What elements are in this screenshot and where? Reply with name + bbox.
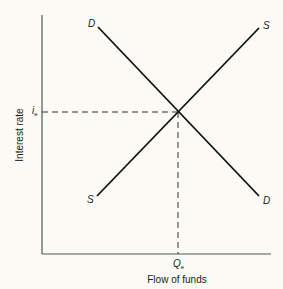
supply-top-label: S: [263, 21, 270, 31]
diagram-canvas: [0, 0, 283, 289]
demand-bottom-label: D: [263, 196, 270, 206]
x-axis-title: Flow of funds: [147, 274, 206, 285]
equilibrium-quantity-symbol: Q: [173, 258, 181, 269]
equilibrium-rate-subscript: e: [34, 111, 37, 117]
demand-top-label: D: [88, 19, 95, 29]
equilibrium-rate-label: ie: [32, 106, 38, 117]
equilibrium-quantity-subscript: e: [181, 264, 184, 270]
y-axis-title: Interest rate: [14, 108, 25, 161]
equilibrium-quantity-label: Qe: [173, 259, 184, 270]
supply-bottom-label: S: [87, 195, 94, 205]
